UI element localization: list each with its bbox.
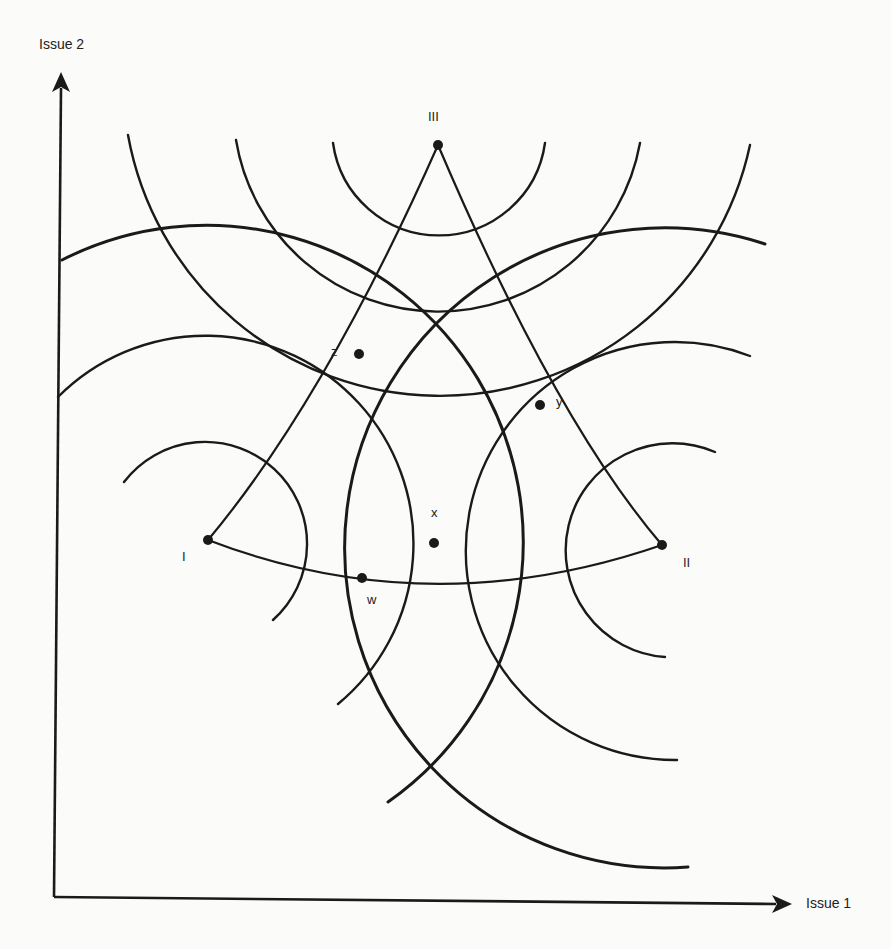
indifference-curves — [58, 135, 765, 868]
outcome-point-y — [535, 400, 545, 410]
outcome-point-z — [354, 349, 364, 359]
axes — [52, 72, 792, 913]
contract-curve-II-III — [438, 145, 662, 545]
outcome-label-z: z — [331, 345, 338, 358]
indifference-arc-III-107 — [333, 143, 545, 235]
indifference-arc-III-317 — [128, 135, 750, 396]
ideal-point-III — [433, 140, 443, 150]
indifference-arc-II-107 — [566, 443, 715, 657]
outcome-point-x — [429, 538, 439, 548]
ideal-point-label-II: II — [683, 556, 690, 569]
indifference-arc-III-205 — [236, 140, 640, 312]
spatial-voting-diagram: Issue 2 Issue 1 I II III z y x w — [0, 0, 891, 949]
outcome-label-x: x — [431, 506, 438, 519]
ideal-point-II — [657, 540, 667, 550]
ideal-point-I — [203, 535, 213, 545]
indifference-arc-II-320 — [345, 228, 765, 868]
outcome-point-w — [357, 573, 367, 583]
x-axis-label: Issue 1 — [806, 896, 851, 910]
y-axis-line — [54, 88, 61, 897]
ideal-point-label-III: III — [428, 110, 439, 123]
diagram-svg — [0, 0, 891, 949]
outcome-label-y: y — [556, 395, 563, 408]
indifference-arc-II-209 — [466, 342, 750, 760]
x-axis-line — [54, 897, 776, 904]
outcome-label-w: w — [367, 593, 376, 606]
y-axis-label: Issue 2 — [39, 37, 84, 51]
ideal-point-label-I: I — [182, 550, 186, 563]
